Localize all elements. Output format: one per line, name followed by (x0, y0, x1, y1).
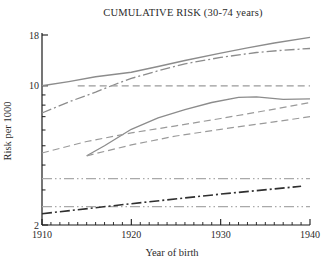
x-tick-label: 1930 (211, 229, 231, 240)
middle-upper-dashed-line (42, 103, 310, 154)
lower-rising-dark-dashdot-line (42, 186, 301, 213)
x-tick-label: 1940 (300, 229, 320, 240)
middle-solid-line (87, 97, 310, 156)
chart-title: CUMULATIVE RISK (30-74 years) (103, 7, 263, 19)
x-tick-label: 1910 (32, 229, 52, 240)
x-axis-label: Year of birth (145, 247, 199, 258)
cumulative-risk-chart: CUMULATIVE RISK (30-74 years) Year of bi… (0, 0, 325, 269)
y-axis-label: Risk per 1000 (2, 102, 13, 161)
upper-solid-line (42, 37, 310, 85)
plot-area: 210181910192019301940 (29, 30, 320, 241)
y-tick-label: 18 (29, 30, 39, 41)
chart-figure: CUMULATIVE RISK (30-74 years) Year of bi… (0, 0, 325, 269)
y-tick-label: 10 (29, 80, 39, 91)
upper-dashdot-line (42, 49, 310, 114)
x-tick-label: 1920 (121, 229, 141, 240)
